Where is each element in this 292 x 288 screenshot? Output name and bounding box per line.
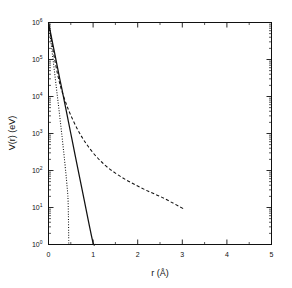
- x-tick-label: 2: [136, 251, 140, 258]
- x-tick-label: 0: [47, 251, 51, 258]
- x-axis-minor-ticks: [71, 23, 249, 245]
- data-series-group: [49, 23, 185, 246]
- x-axis-title: r (Å): [151, 268, 169, 278]
- y-tick-label: 100: [32, 239, 43, 248]
- y-axis-major-ticks: [49, 23, 272, 245]
- potential-vs-distance-plot: 012345 100101102103104105106 r (Å) V(r) …: [0, 0, 292, 288]
- y-tick-label: 101: [32, 202, 43, 211]
- y-tick-label: 103: [32, 128, 43, 137]
- plot-frame: [49, 23, 272, 245]
- y-tick-label: 102: [32, 165, 43, 174]
- y-axis-title: V(r) (eV): [7, 116, 17, 151]
- x-axis-major-ticks: [49, 23, 272, 245]
- chart-figure: 012345 100101102103104105106 r (Å) V(r) …: [0, 0, 292, 288]
- y-axis-tick-labels: 100101102103104105106: [32, 17, 43, 248]
- series-dashed-curve: [49, 23, 185, 210]
- x-tick-label: 5: [270, 251, 274, 258]
- y-tick-label: 104: [32, 91, 43, 100]
- series-solid-curve: [49, 23, 96, 246]
- x-tick-label: 1: [91, 251, 95, 258]
- x-axis-tick-labels: 012345: [47, 251, 274, 258]
- y-tick-label: 106: [32, 17, 43, 26]
- x-tick-label: 3: [180, 251, 184, 258]
- y-tick-label: 105: [32, 54, 43, 63]
- y-axis-minor-ticks: [49, 24, 272, 233]
- x-tick-label: 4: [225, 251, 229, 258]
